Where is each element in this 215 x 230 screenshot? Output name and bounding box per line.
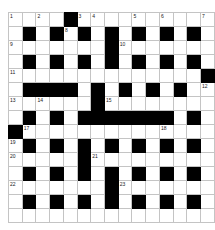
crossword-cell[interactable] bbox=[36, 153, 50, 167]
crossword-cell[interactable] bbox=[118, 125, 132, 139]
crossword-cell[interactable] bbox=[132, 181, 146, 195]
crossword-cell[interactable] bbox=[63, 181, 77, 195]
crossword-cell[interactable] bbox=[77, 69, 91, 83]
crossword-cell[interactable] bbox=[159, 41, 173, 55]
crossword-cell[interactable] bbox=[173, 69, 187, 83]
crossword-cell[interactable] bbox=[173, 27, 187, 41]
crossword-cell[interactable] bbox=[22, 41, 36, 55]
crossword-cell[interactable] bbox=[118, 69, 132, 83]
crossword-cell[interactable]: 7 bbox=[201, 13, 215, 27]
crossword-cell[interactable] bbox=[50, 69, 64, 83]
crossword-cell[interactable] bbox=[201, 167, 215, 181]
crossword-cell[interactable]: 9 bbox=[9, 41, 23, 55]
crossword-cell[interactable] bbox=[146, 97, 160, 111]
crossword-cell[interactable] bbox=[50, 97, 64, 111]
crossword-cell[interactable] bbox=[173, 97, 187, 111]
crossword-cell[interactable] bbox=[77, 125, 91, 139]
crossword-cell[interactable] bbox=[22, 13, 36, 27]
crossword-cell[interactable] bbox=[63, 69, 77, 83]
crossword-cell[interactable] bbox=[146, 195, 160, 209]
crossword-cell[interactable] bbox=[187, 83, 201, 97]
crossword-cell[interactable] bbox=[63, 195, 77, 209]
crossword-cell[interactable]: 1 bbox=[9, 13, 23, 27]
crossword-cell[interactable] bbox=[173, 209, 187, 223]
crossword-cell[interactable] bbox=[77, 83, 91, 97]
crossword-cell[interactable] bbox=[173, 153, 187, 167]
crossword-cell[interactable] bbox=[63, 41, 77, 55]
crossword-cell[interactable] bbox=[201, 97, 215, 111]
crossword-cell[interactable] bbox=[118, 55, 132, 69]
crossword-cell[interactable] bbox=[159, 83, 173, 97]
crossword-cell[interactable] bbox=[105, 13, 119, 27]
crossword-cell[interactable] bbox=[187, 13, 201, 27]
crossword-cell[interactable] bbox=[91, 27, 105, 41]
crossword-cell[interactable]: 20 bbox=[9, 153, 23, 167]
crossword-cell[interactable] bbox=[146, 69, 160, 83]
crossword-cell[interactable] bbox=[36, 69, 50, 83]
crossword-cell[interactable] bbox=[22, 153, 36, 167]
crossword-cell[interactable] bbox=[9, 167, 23, 181]
crossword-cell[interactable] bbox=[146, 139, 160, 153]
crossword-cell[interactable] bbox=[22, 97, 36, 111]
crossword-cell[interactable] bbox=[201, 41, 215, 55]
crossword-cell[interactable] bbox=[159, 209, 173, 223]
crossword-cell[interactable] bbox=[77, 41, 91, 55]
crossword-cell[interactable] bbox=[118, 13, 132, 27]
crossword-cell[interactable] bbox=[118, 209, 132, 223]
crossword-cell[interactable] bbox=[50, 209, 64, 223]
crossword-cell[interactable] bbox=[91, 125, 105, 139]
crossword-cell[interactable] bbox=[91, 167, 105, 181]
crossword-cell[interactable] bbox=[159, 97, 173, 111]
crossword-cell[interactable] bbox=[132, 125, 146, 139]
crossword-cell[interactable]: 21 bbox=[91, 153, 105, 167]
crossword-cell[interactable] bbox=[91, 139, 105, 153]
crossword-cell[interactable] bbox=[146, 167, 160, 181]
crossword-cell[interactable] bbox=[187, 41, 201, 55]
crossword-cell[interactable] bbox=[36, 139, 50, 153]
crossword-cell[interactable] bbox=[22, 69, 36, 83]
crossword-cell[interactable] bbox=[63, 209, 77, 223]
crossword-cell[interactable] bbox=[187, 209, 201, 223]
crossword-cell[interactable] bbox=[91, 195, 105, 209]
crossword-cell[interactable] bbox=[146, 153, 160, 167]
crossword-cell[interactable] bbox=[50, 13, 64, 27]
crossword-cell[interactable] bbox=[36, 111, 50, 125]
crossword-cell[interactable] bbox=[118, 167, 132, 181]
crossword-cell[interactable] bbox=[173, 55, 187, 69]
crossword-cell[interactable] bbox=[36, 167, 50, 181]
crossword-cell[interactable] bbox=[159, 181, 173, 195]
crossword-cell[interactable] bbox=[173, 125, 187, 139]
crossword-cell[interactable] bbox=[91, 41, 105, 55]
crossword-cell[interactable] bbox=[201, 27, 215, 41]
crossword-cell[interactable] bbox=[118, 97, 132, 111]
crossword-cell[interactable] bbox=[63, 125, 77, 139]
crossword-cell[interactable]: 17 bbox=[22, 125, 36, 139]
crossword-cell[interactable] bbox=[146, 55, 160, 69]
crossword-cell[interactable] bbox=[118, 153, 132, 167]
crossword-cell[interactable] bbox=[132, 153, 146, 167]
crossword-cell[interactable] bbox=[201, 111, 215, 125]
crossword-cell[interactable] bbox=[63, 167, 77, 181]
crossword-cell[interactable]: 19 bbox=[9, 139, 23, 153]
crossword-cell[interactable] bbox=[36, 41, 50, 55]
crossword-cell[interactable] bbox=[132, 41, 146, 55]
crossword-cell[interactable] bbox=[50, 153, 64, 167]
crossword-cell[interactable] bbox=[146, 181, 160, 195]
crossword-cell[interactable] bbox=[187, 153, 201, 167]
crossword-cell[interactable] bbox=[159, 69, 173, 83]
crossword-cell[interactable] bbox=[201, 181, 215, 195]
crossword-cell[interactable] bbox=[36, 125, 50, 139]
crossword-cell[interactable]: 3 bbox=[77, 13, 91, 27]
crossword-cell[interactable]: 10 bbox=[118, 41, 132, 55]
crossword-cell[interactable]: 18 bbox=[159, 125, 173, 139]
crossword-cell[interactable] bbox=[187, 181, 201, 195]
crossword-cell[interactable] bbox=[173, 41, 187, 55]
crossword-cell[interactable] bbox=[118, 195, 132, 209]
crossword-cell[interactable] bbox=[105, 69, 119, 83]
crossword-cell[interactable] bbox=[9, 83, 23, 97]
crossword-cell[interactable] bbox=[132, 209, 146, 223]
crossword-cell[interactable] bbox=[146, 13, 160, 27]
crossword-cell[interactable] bbox=[77, 181, 91, 195]
crossword-cell[interactable] bbox=[187, 97, 201, 111]
crossword-cell[interactable] bbox=[201, 153, 215, 167]
